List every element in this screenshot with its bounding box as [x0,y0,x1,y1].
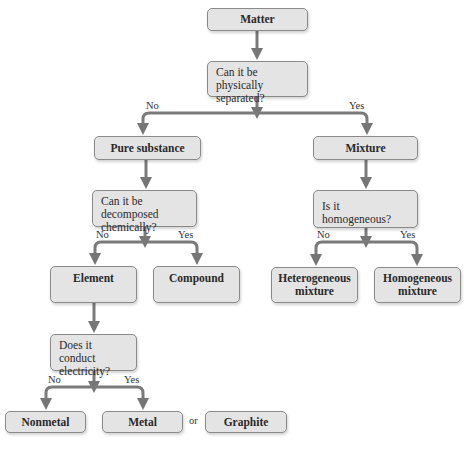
node-mixture: Mixture [313,136,418,160]
node-compound: Compound [153,266,240,303]
node-question-decomposed-chemically-label: Can it be decomposed chemically? [101,195,188,234]
node-element-label: Element [73,272,114,285]
node-homogeneous-mixture-label: Homogeneous mixture [381,272,454,298]
node-matter: Matter [207,8,308,31]
node-pure-substance-label: Pure substance [110,142,184,155]
node-metal-label: Metal [128,416,157,429]
node-question-conduct-electricity: Does it conduct electricity? [50,334,137,371]
edge-label-no-homogeneous: No [317,229,330,240]
node-question-decomposed-chemically: Can it be decomposed chemically? [92,190,197,227]
node-question-physically-separated: Can it be physically separated? [207,61,308,97]
node-mixture-label: Mixture [345,142,385,155]
edge-label-no-decompose: No [96,229,109,240]
node-question-homogeneous-label: Is it homogeneous? [322,200,409,226]
or-label: or [189,415,198,426]
node-graphite: Graphite [205,411,287,433]
edge-label-yes-physical: Yes [349,100,364,111]
edge-label-yes-homogeneous: Yes [400,229,415,240]
node-question-homogeneous: Is it homogeneous? [313,190,418,228]
edge-label-no-physical: No [146,100,159,111]
node-homogeneous-mixture: Homogeneous mixture [374,267,461,303]
node-question-conduct-electricity-label: Does it conduct electricity? [59,339,128,378]
node-element: Element [50,266,137,303]
edge-label-no-conduct: No [48,374,61,385]
node-metal: Metal [102,411,183,433]
node-compound-label: Compound [169,272,224,285]
node-heterogeneous-mixture-label: Heterogeneous mixture [278,272,351,298]
node-question-physically-separated-label: Can it be physically separated? [216,66,299,105]
node-nonmetal: Nonmetal [5,411,86,433]
edge-label-yes-conduct: Yes [124,374,139,385]
node-pure-substance: Pure substance [94,136,201,160]
node-matter-label: Matter [240,13,274,26]
node-nonmetal-label: Nonmetal [22,416,70,429]
edge-label-yes-decompose: Yes [178,229,193,240]
node-heterogeneous-mixture: Heterogeneous mixture [271,267,358,303]
node-graphite-label: Graphite [224,416,269,429]
